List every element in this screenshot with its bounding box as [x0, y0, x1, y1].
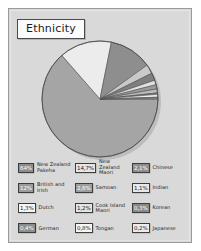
- legend-percent-badge: 1,3%: [18, 203, 36, 213]
- legend-percent-badge: 0,3%: [132, 203, 150, 213]
- legend-label: Chinese: [153, 165, 173, 171]
- legend-percent-badge: 2,6%: [75, 183, 93, 193]
- legend-item[interactable]: 2,1%Chinese: [132, 159, 184, 176]
- legend-item[interactable]: 1,3%Dutch: [18, 200, 75, 217]
- legend-item[interactable]: 0,4%German: [18, 220, 75, 237]
- legend-row: 0,4%German0,8%Tongan0,2%Japanese: [18, 220, 184, 237]
- legend-label: British and Irish: [37, 182, 73, 193]
- legend-item[interactable]: 1,1%Indian: [132, 179, 184, 196]
- legend-label: Cook Island Maori: [96, 203, 132, 214]
- legend-label: Tongan: [96, 226, 114, 232]
- legend-label: New Zealand Maori: [99, 159, 132, 176]
- legend-percent-badge: 1,2%: [75, 203, 93, 213]
- legend-label: Korean: [153, 205, 171, 211]
- legend-item[interactable]: 0,8%Tongan: [75, 220, 132, 237]
- ethnicity-infographic: Ethnicity 64%New Zealand Pakeha14,7%New …: [0, 0, 201, 251]
- legend-percent-badge: 14,7%: [75, 163, 96, 173]
- legend-item[interactable]: 12%British and Irish: [18, 179, 75, 196]
- legend-item[interactable]: 0,2%Japanese: [132, 220, 184, 237]
- chart-panel: Ethnicity 64%New Zealand Pakeha14,7%New …: [8, 8, 192, 243]
- legend-percent-badge: 0,4%: [18, 223, 36, 233]
- legend-label: Japanese: [153, 226, 176, 232]
- legend-item[interactable]: 1,2%Cook Island Maori: [75, 200, 132, 217]
- legend-item[interactable]: 2,6%Samoan: [75, 179, 132, 196]
- legend-row: 64%New Zealand Pakeha14,7%New Zealand Ma…: [18, 159, 184, 176]
- legend-label: Dutch: [39, 205, 54, 211]
- legend-row: 1,3%Dutch1,2%Cook Island Maori0,3%Korean: [18, 200, 184, 217]
- legend-percent-badge: 1,1%: [132, 183, 150, 193]
- legend-item[interactable]: 0,3%Korean: [132, 200, 184, 217]
- legend-item[interactable]: 14,7%New Zealand Maori: [75, 159, 132, 176]
- chart-title-box: Ethnicity: [17, 19, 85, 39]
- legend-percent-badge: 0,2%: [132, 223, 150, 233]
- pie-chart-svg: [9, 39, 191, 161]
- legend-label: Samoan: [96, 185, 117, 191]
- page-title: Ethnicity: [26, 22, 76, 35]
- pie-chart: [9, 39, 191, 161]
- legend-percent-badge: 12%: [18, 183, 34, 193]
- legend-percent-badge: 2,1%: [132, 163, 150, 173]
- legend-percent-badge: 0,8%: [75, 223, 93, 233]
- legend-label: German: [39, 226, 59, 232]
- legend-label: New Zealand Pakeha: [37, 162, 73, 173]
- legend-row: 12%British and Irish2,6%Samoan1,1%Indian: [18, 179, 184, 196]
- legend-item[interactable]: 64%New Zealand Pakeha: [18, 159, 75, 176]
- legend-label: Indian: [153, 185, 169, 191]
- chart-legend: 64%New Zealand Pakeha14,7%New Zealand Ma…: [18, 159, 184, 237]
- legend-percent-badge: 64%: [18, 163, 34, 173]
